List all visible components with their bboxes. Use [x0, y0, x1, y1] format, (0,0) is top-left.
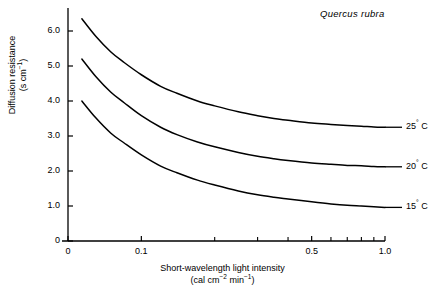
series-temp-unit: C: [419, 121, 428, 131]
x-tick-label: 1.0: [370, 246, 400, 256]
label-layer: 01.02.03.04.05.06.000.10.51.025° C20° C1…: [0, 0, 445, 297]
series-temp-value: 20: [406, 161, 416, 171]
chart-figure: Quercus rubra Diffusion resistance (s cm…: [0, 0, 445, 297]
y-tick-label: 5.0: [32, 60, 60, 70]
series-label-25: 25° C: [406, 121, 428, 131]
y-tick-label: 1.0: [32, 200, 60, 210]
x-tick-label: 0: [53, 246, 83, 256]
y-tick-label: 4.0: [32, 95, 60, 105]
series-label-20: 20° C: [406, 161, 428, 171]
x-tick-label: 0.5: [297, 246, 327, 256]
y-tick-label: 6.0: [32, 25, 60, 35]
series-label-15: 15° C: [406, 201, 428, 211]
y-tick-label: 3.0: [32, 130, 60, 140]
series-temp-unit: C: [419, 201, 428, 211]
x-tick-label: 0.1: [126, 246, 156, 256]
series-temp-value: 25: [406, 121, 416, 131]
y-tick-label: 2.0: [32, 165, 60, 175]
series-temp-unit: C: [419, 161, 428, 171]
y-tick-label: 0: [32, 235, 60, 245]
series-temp-value: 15: [406, 201, 416, 211]
